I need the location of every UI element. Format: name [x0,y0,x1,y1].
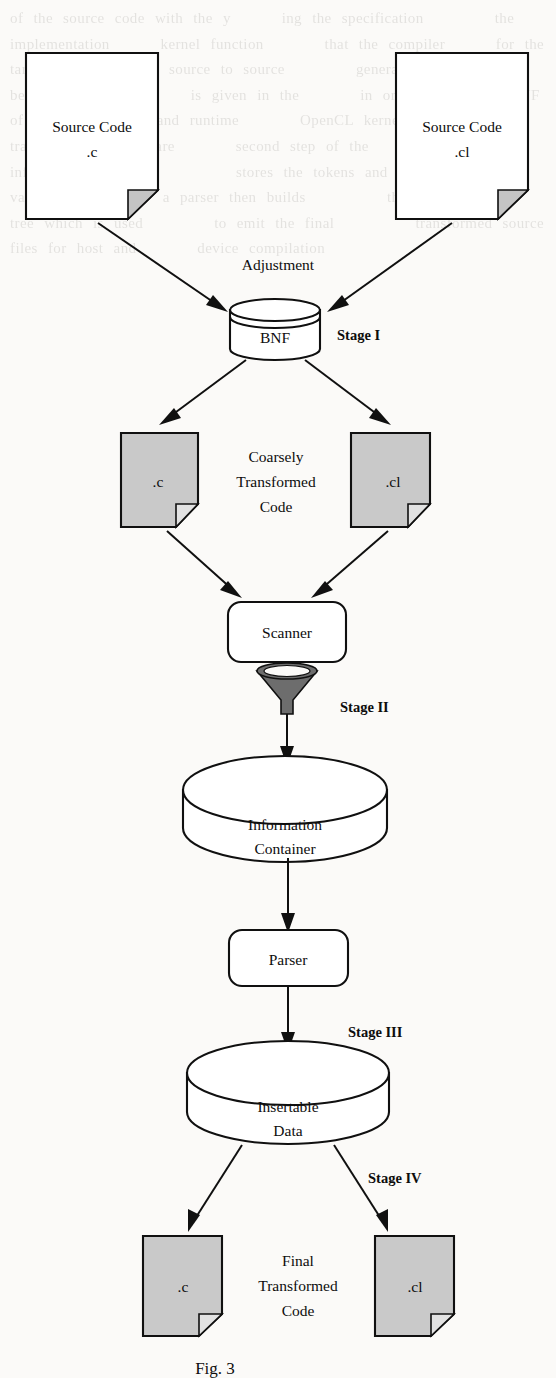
figure-caption: Fig. 3 [195,1359,235,1378]
final-caption-line1: Final [282,1252,314,1269]
coarse-caption-line3: Code [260,498,293,515]
stage-label-one: Stage I [337,327,380,343]
adjustment-label: Adjustment [242,256,315,273]
source-code-c-label-line2: .c [87,143,98,160]
source-code-cl-label-line2: .cl [454,143,469,160]
edge-insertable-data-to-final-c [188,1145,242,1232]
stage-label-two: Stage II [340,699,389,715]
node-source-code-cl[interactable]: Source Code .cl [396,53,528,219]
pipeline-flowchart: Source Code .c Source Code .cl Adjustmen… [0,0,556,1378]
edge-insertable-data-to-final-cl [334,1145,388,1232]
coarse-transformed-code-caption: Coarsely Transformed Code [236,448,316,515]
insertable-data-cylinder-top [187,1041,389,1105]
final-c-page-fold-icon [199,1314,222,1336]
node-final-transformed-cl[interactable]: .cl [375,1236,454,1336]
node-source-code-c[interactable]: Source Code .c [26,53,158,219]
edge-information-container-to-parser [281,858,295,933]
information-container-label-line1: Information [248,816,322,833]
coarse-c-page-fold-icon [176,504,198,527]
final-caption-line2: Transformed [258,1277,338,1294]
final-cl-label: .cl [407,1278,422,1295]
source-code-cl-page-fold-icon [498,190,528,219]
stage-label-three: Stage III [348,1024,403,1040]
insertable-data-label-line2: Data [273,1122,302,1139]
funnel-icon [257,663,317,714]
node-parser[interactable]: Parser [229,930,348,986]
parser-label: Parser [269,951,309,968]
coarse-cl-page-fold-icon [408,504,430,527]
node-information-container[interactable]: Information Container [183,756,387,862]
node-coarse-transformed-cl[interactable]: .cl [351,433,430,527]
node-final-transformed-c[interactable]: .c [143,1236,222,1336]
stage-label-four: Stage IV [368,1170,422,1186]
bnf-cylinder-top [230,299,320,321]
coarse-caption-line1: Coarsely [248,448,303,465]
final-cl-page-fold-icon [431,1314,454,1336]
edge-source-cl-to-bnf [327,223,452,312]
edge-source-c-to-bnf [98,223,228,312]
node-bnf-database[interactable]: BNF [230,299,320,360]
coarse-cl-label: .cl [385,473,400,490]
source-code-cl-label-line1: Source Code [422,118,502,135]
node-scanner[interactable]: Scanner [228,602,346,662]
node-coarse-transformed-c[interactable]: .c [121,433,198,527]
edge-bnf-to-coarse-cl [305,360,391,425]
figure-page: of the source code with the y ing the sp… [0,0,556,1378]
information-container-label-line2: Container [254,840,316,857]
coarse-c-label: .c [153,473,164,490]
edge-coarse-c-to-scanner [167,531,242,598]
bnf-label: BNF [260,329,291,346]
edge-bnf-to-coarse-c [159,360,246,425]
information-container-cylinder-top [183,756,387,824]
scanner-label: Scanner [262,624,313,641]
final-caption-line3: Code [282,1302,315,1319]
coarse-caption-line2: Transformed [236,473,316,490]
source-code-c-label-line1: Source Code [52,118,132,135]
node-insertable-data[interactable]: Insertable Data [187,1041,389,1144]
insertable-data-label-line1: Insertable [257,1098,318,1115]
edge-coarse-cl-to-scanner [311,531,388,598]
final-transformed-code-caption: Final Transformed Code [258,1252,338,1319]
source-code-c-page-fold-icon [128,190,158,219]
final-c-label: .c [178,1278,189,1295]
